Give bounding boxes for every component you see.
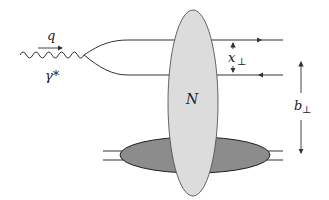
momentum-label: q bbox=[47, 28, 55, 43]
nucleus-label: N bbox=[185, 91, 199, 107]
dipole-size-label: x bbox=[228, 50, 236, 65]
photon-line bbox=[20, 52, 84, 58]
photon-label: γ* bbox=[45, 68, 60, 83]
impact-parameter-subscript: ⊥ bbox=[302, 104, 311, 115]
dipole-scattering-diagram: q γ* N x ⊥ b ⊥ bbox=[0, 0, 329, 200]
dipole-size-subscript: ⊥ bbox=[237, 56, 246, 67]
upper-line-arrow-icon bbox=[257, 38, 262, 43]
lower-line-arrow-icon bbox=[258, 73, 263, 78]
